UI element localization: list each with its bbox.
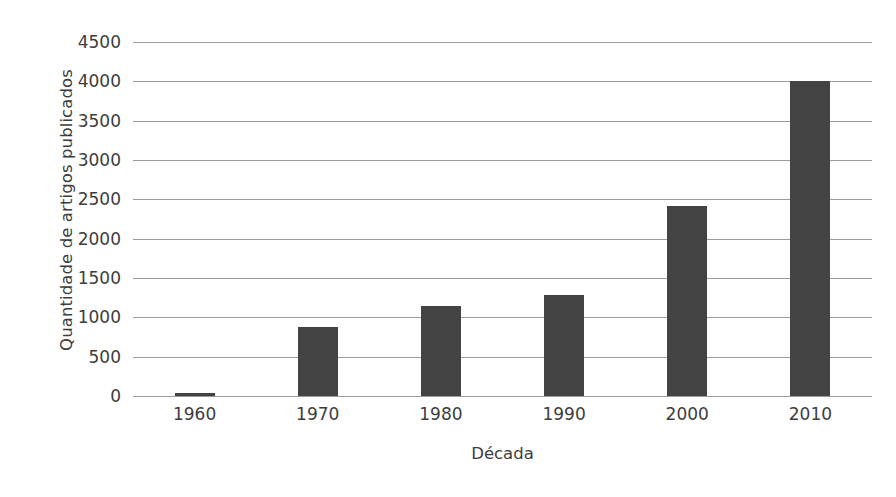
y-tick-label: 1500 [49, 268, 121, 288]
y-tick-label: 500 [49, 347, 121, 367]
gridline [133, 121, 872, 122]
y-tick-label: 4000 [49, 71, 121, 91]
gridline [133, 81, 872, 82]
bar-chart: Quantidade de artigos publicados 0500100… [0, 0, 896, 497]
x-tick-label: 1990 [504, 404, 624, 424]
y-tick-label: 3500 [49, 111, 121, 131]
gridline [133, 396, 872, 397]
bar-1970 [298, 327, 338, 396]
gridline [133, 357, 872, 358]
y-tick-label: 4500 [49, 32, 121, 52]
bar-2000 [667, 206, 707, 396]
gridline [133, 199, 872, 200]
y-tick-label: 1000 [49, 307, 121, 327]
gridline [133, 317, 872, 318]
gridline [133, 278, 872, 279]
bar-1960 [175, 393, 215, 396]
y-axis-tick-labels: 050010001500200025003000350040004500 [41, 42, 121, 396]
y-tick-label: 2000 [49, 229, 121, 249]
x-tick-label: 1960 [135, 404, 255, 424]
y-tick-label: 2500 [49, 189, 121, 209]
bar-1990 [544, 295, 584, 396]
gridline [133, 42, 872, 43]
bar-2010 [790, 81, 830, 396]
x-axis-title: Década [133, 444, 872, 463]
x-tick-label: 2010 [750, 404, 870, 424]
x-axis-tick-labels: 196019701980199020002010 [133, 404, 872, 434]
gridline [133, 239, 872, 240]
bar-1980 [421, 306, 461, 396]
plot-area [133, 42, 872, 396]
x-tick-label: 2000 [627, 404, 747, 424]
y-tick-label: 0 [49, 386, 121, 406]
gridline [133, 160, 872, 161]
y-tick-label: 3000 [49, 150, 121, 170]
x-tick-label: 1980 [381, 404, 501, 424]
x-tick-label: 1970 [258, 404, 378, 424]
